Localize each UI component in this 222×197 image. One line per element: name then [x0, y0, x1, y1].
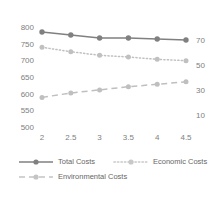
data-point[interactable] — [184, 79, 189, 84]
legend-label: Environmental Costs — [58, 171, 127, 183]
y-axis-left-tick: 650 — [12, 73, 34, 82]
data-point[interactable] — [39, 29, 44, 34]
x-axis-tick: 2.5 — [60, 133, 82, 142]
y-axis-left-tick: 600 — [12, 90, 34, 99]
y-axis-left-tick: 500 — [12, 123, 34, 132]
legend-label: Economic Costs — [153, 156, 207, 168]
data-point[interactable] — [68, 32, 73, 37]
y-axis-left-tick: 800 — [12, 23, 34, 32]
y-axis-right-tick: 10 — [196, 111, 218, 120]
data-point[interactable] — [40, 45, 45, 50]
data-point[interactable] — [126, 55, 131, 60]
x-axis-tick: 3.5 — [117, 133, 139, 142]
legend-swatch-solid-icon — [18, 156, 54, 168]
series-economic-costs — [40, 45, 189, 63]
series-line — [42, 47, 186, 60]
data-point[interactable] — [155, 57, 160, 62]
data-point[interactable] — [68, 49, 73, 54]
legend-label: Total Costs — [58, 156, 95, 168]
data-point[interactable] — [97, 35, 102, 40]
x-axis-tick: 2 — [31, 133, 53, 142]
data-point[interactable] — [97, 53, 102, 58]
data-point[interactable] — [184, 58, 189, 63]
legend-swatch-dotted-icon — [113, 156, 149, 168]
y-axis-right-tick: 30 — [196, 86, 218, 95]
x-axis-tick: 4 — [146, 133, 168, 142]
series-line — [42, 82, 186, 98]
series-line — [42, 32, 186, 40]
data-point[interactable] — [97, 87, 102, 92]
legend-swatch-dashed-icon — [18, 171, 54, 183]
data-point[interactable] — [68, 91, 73, 96]
series-total-costs — [39, 29, 188, 42]
x-axis-tick: 4.5 — [175, 133, 197, 142]
chart-legend: Total Costs Economic Costs Environmental… — [0, 152, 222, 197]
y-axis-left-tick: 550 — [12, 106, 34, 115]
data-point[interactable] — [155, 82, 160, 87]
data-point[interactable] — [126, 84, 131, 89]
series-environmental-costs — [40, 79, 189, 100]
data-point[interactable] — [155, 36, 160, 41]
data-point[interactable] — [126, 35, 131, 40]
y-axis-right-tick: 70 — [196, 36, 218, 45]
line-chart: 800750700650600550500 70503010 22.533.54… — [0, 0, 222, 197]
x-axis-tick: 3 — [89, 133, 111, 142]
y-axis-left-tick: 700 — [12, 56, 34, 65]
data-point[interactable] — [40, 95, 45, 100]
y-axis-right-tick: 50 — [196, 61, 218, 70]
data-point[interactable] — [183, 37, 188, 42]
y-axis-left-tick: 750 — [12, 40, 34, 49]
